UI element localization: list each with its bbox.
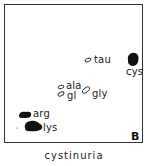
spot-lys bbox=[25, 121, 42, 132]
label-tau: tau bbox=[94, 55, 111, 65]
spot-tau bbox=[84, 57, 91, 62]
label-cys: cys bbox=[126, 67, 143, 77]
label-arg: arg bbox=[33, 109, 50, 119]
label-gl: gl bbox=[67, 91, 77, 101]
spot-gl bbox=[57, 91, 64, 97]
figure-caption: cystinuria bbox=[0, 150, 148, 161]
spot-cys bbox=[128, 53, 139, 66]
spot-gly bbox=[81, 86, 90, 94]
spot-ala bbox=[58, 85, 65, 90]
spot-arg bbox=[19, 112, 31, 118]
panel-label: B bbox=[131, 130, 139, 143]
label-lys: lys bbox=[43, 123, 58, 133]
label-gly: gly bbox=[92, 89, 108, 99]
trace-dot bbox=[16, 127, 17, 128]
